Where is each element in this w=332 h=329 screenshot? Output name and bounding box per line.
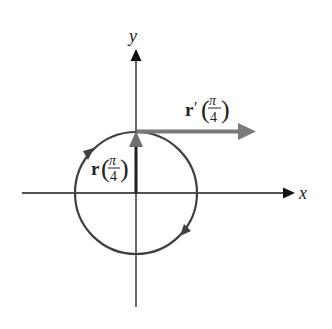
position-argument-numerator: π: [109, 153, 117, 168]
y-axis-arrow-icon: [131, 49, 142, 61]
curve-direction-arrow-icon: [180, 224, 191, 236]
position-vector-label: r ( π 4 ): [91, 153, 129, 184]
y-axis-label: y: [127, 26, 137, 46]
derivative-argument-numerator: π: [209, 93, 217, 108]
derivative-argument-denominator: 4: [210, 110, 217, 125]
derivative-vector: [137, 123, 256, 140]
position-vector-symbol: r: [91, 158, 100, 179]
x-axis: [22, 188, 295, 199]
prime-mark: ′: [194, 99, 198, 116]
right-paren: ): [221, 95, 230, 124]
right-paren: ): [120, 154, 129, 183]
derivative-vector-label: r ′ ( π 4 ): [185, 93, 230, 125]
position-vector: [129, 131, 143, 193]
derivative-vector-arrow-icon: [238, 123, 256, 140]
x-axis-arrow-icon: [283, 188, 295, 199]
derivative-vector-symbol: r: [185, 99, 194, 120]
position-argument-denominator: 4: [110, 169, 117, 184]
vector-diagram: y x r ( π 4 ) r ′ ( π 4 ): [0, 0, 332, 329]
x-axis-label: x: [298, 183, 307, 203]
